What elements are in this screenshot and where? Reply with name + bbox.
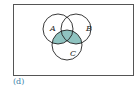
label-c: C [70,49,76,58]
figure-caption: (d) [13,77,24,86]
label-b: B [85,24,92,33]
label-a: A [49,24,56,33]
